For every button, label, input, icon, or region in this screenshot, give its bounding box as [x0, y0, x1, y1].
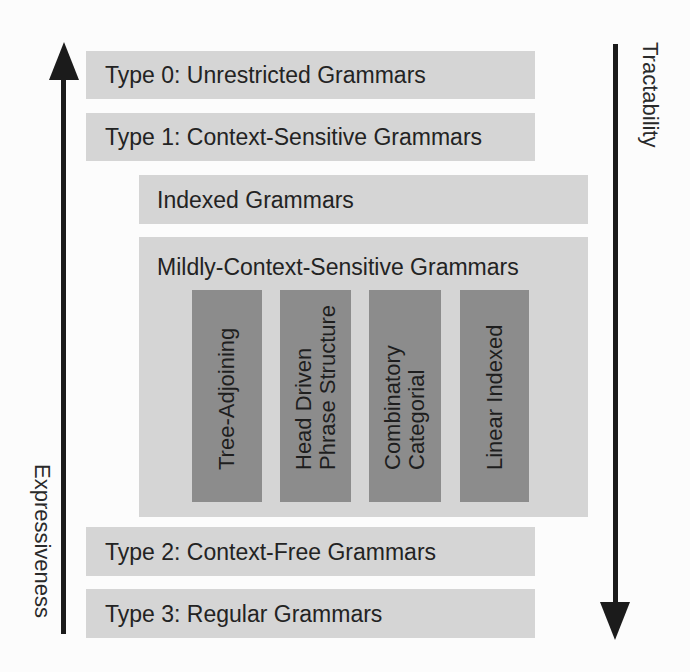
- subclass-hpsg: Head Driven Phrase Structure: [280, 290, 351, 502]
- hpsg-label-line1: Head Driven: [292, 348, 316, 470]
- arrow-up-icon: [49, 42, 79, 80]
- subclass-linear-indexed: Linear Indexed: [460, 290, 529, 502]
- mcsg-box: Mildly-Context-Sensitive Grammars Tree-A…: [139, 237, 588, 517]
- linear-indexed-label: Linear Indexed: [483, 324, 507, 470]
- subclass-ccg: Combinatory Categorial: [369, 290, 441, 502]
- type1-label: Type 1: Context-Sensitive Grammars: [105, 126, 482, 149]
- tree-adjoining-label: Tree-Adjoining: [215, 328, 239, 470]
- indexed-box: Indexed Grammars: [139, 175, 588, 224]
- ccg-label-line2: Categorial: [405, 370, 429, 470]
- tractability-arrow-shaft: [613, 44, 618, 604]
- arrow-down-icon: [600, 602, 630, 640]
- type1-box: Type 1: Context-Sensitive Grammars: [86, 113, 535, 161]
- mcsg-label: Mildly-Context-Sensitive Grammars: [157, 256, 519, 279]
- indexed-label: Indexed Grammars: [157, 189, 354, 212]
- expressiveness-label: Expressiveness: [29, 464, 55, 618]
- subclass-tree-adjoining: Tree-Adjoining: [192, 290, 262, 502]
- hpsg-label-line2: Phrase Structure: [316, 305, 340, 470]
- tractability-label: Tractability: [637, 42, 663, 148]
- type3-box: Type 3: Regular Grammars: [86, 589, 535, 638]
- type3-label: Type 3: Regular Grammars: [105, 603, 382, 626]
- type2-label: Type 2: Context-Free Grammars: [105, 541, 436, 564]
- expressiveness-arrow-shaft: [61, 76, 66, 634]
- type2-box: Type 2: Context-Free Grammars: [86, 527, 535, 576]
- type0-label: Type 0: Unrestricted Grammars: [105, 64, 426, 87]
- type0-box: Type 0: Unrestricted Grammars: [86, 51, 535, 99]
- ccg-label-line1: Combinatory: [381, 345, 405, 470]
